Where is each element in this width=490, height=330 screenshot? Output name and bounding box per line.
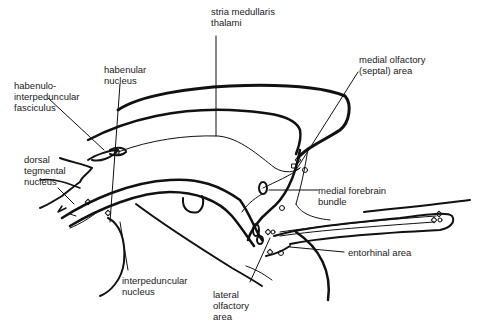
brain-outline-drawing (0, 0, 490, 330)
label-stria-medullaris: stria medullaris thalami (211, 6, 275, 28)
label-habenular-nucleus: habenular nucleus (104, 64, 146, 86)
diagram-canvas: stria medullaris thalami habenular nucle… (0, 0, 490, 330)
label-entorhinal-area: entorhinal area (348, 247, 411, 258)
label-medial-forebrain-bundle: medial forebrain bundle (318, 185, 386, 207)
label-medial-olfactory-area: medial olfactory (septal) area (359, 54, 426, 76)
label-lateral-olfactory-area: lateral olfactory area (213, 289, 249, 322)
label-interpeduncular-nucleus: interpeduncular nucleus (122, 275, 188, 297)
label-habenulo-interpeduncular-fasciculus: habenulo- interpeduncular fasciculus (14, 80, 80, 113)
label-dorsal-tegmental-nucleus: dorsal tegmental nucleus (24, 154, 66, 187)
